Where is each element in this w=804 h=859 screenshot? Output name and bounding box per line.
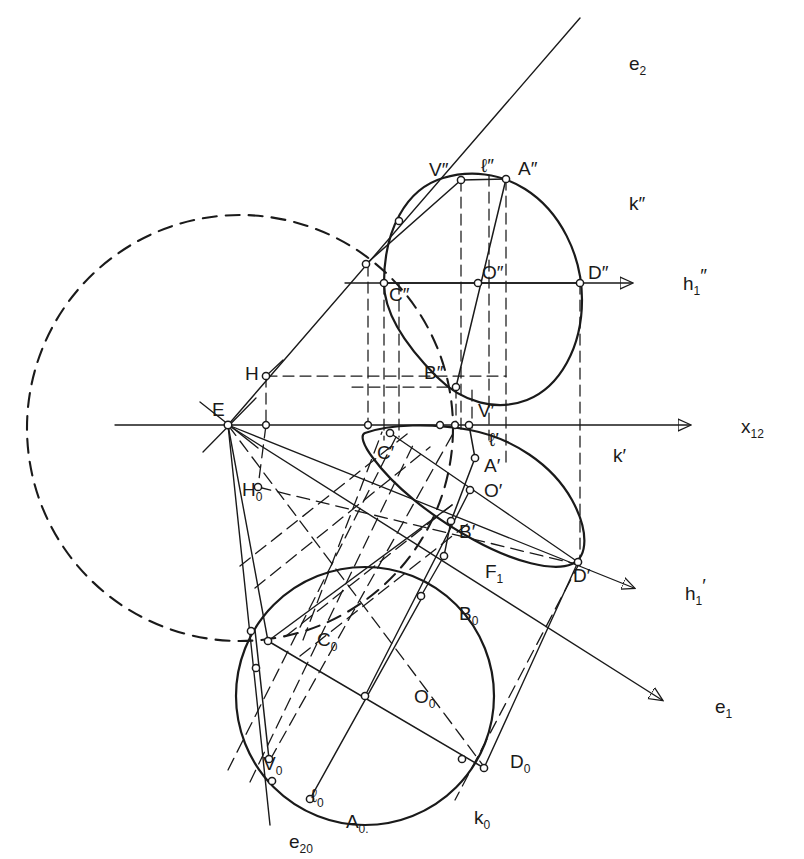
label-point-D0: D0 [473, 751, 557, 777]
label-point-V-double-prime: V″ [429, 159, 449, 180]
label-point-V0: V0 [226, 753, 309, 779]
label-point-V-prime: V′ [478, 400, 495, 421]
k2-chord-V-A [461, 179, 506, 180]
marker-A-prime [471, 454, 478, 461]
marker-k2-left [362, 260, 369, 267]
marker-H [262, 372, 269, 379]
marker-C-prime-axis [365, 422, 372, 429]
label-point-D-prime: D′ [573, 565, 591, 586]
transfer-D0-line [484, 562, 578, 768]
label-point-D-double-prime: D″ [588, 262, 609, 283]
label-point-l0: ℓ0 [274, 785, 350, 811]
marker-C-prime [386, 429, 393, 436]
label-point-H: H [245, 363, 259, 384]
label-point-O-prime: O′ [484, 480, 503, 501]
transfer-B0-to-F1 [421, 556, 444, 596]
axis-e1 [228, 425, 662, 700]
marker-C0-lower [252, 664, 259, 671]
marker-l0 [268, 777, 275, 784]
label-curve-k-prime: k′ [576, 445, 652, 466]
ordinate-lines-group [266, 175, 580, 560]
label-point-O-double-prime: O″ [482, 262, 504, 283]
label-point-E: E [212, 399, 225, 420]
label-axis-h1-double-prime: h1″ [646, 265, 733, 298]
label-point-l-double-prime: ℓ″ [481, 155, 494, 176]
marker-O-prime [466, 486, 473, 493]
marker-B0 [417, 592, 424, 599]
marker-O0 [361, 692, 368, 699]
marker-x12-mid-1 [437, 422, 444, 429]
marker-V-prime [465, 421, 472, 428]
corr-band-2 [255, 447, 430, 588]
k2-chord-V-lower [366, 180, 461, 264]
rotation-correspondence-lines [228, 425, 580, 800]
marker-B-double-prime [452, 383, 459, 390]
marker-D-double-prime [576, 279, 583, 286]
marker-V-double-prime [457, 176, 464, 183]
label-axis-e20: e20 [252, 831, 339, 857]
k0-chord-V0-C0 [255, 630, 269, 759]
label-point-A-double-prime: A″ [518, 158, 538, 179]
marker-F1 [440, 552, 447, 559]
corr-band-8 [303, 432, 382, 640]
label-axis-x12: x12 [704, 416, 790, 442]
marker-A-double-prime [502, 175, 509, 182]
label-point-F1: F1 [448, 561, 530, 587]
label-point-C-prime: C′ [377, 442, 395, 463]
curve-k-double-prime [384, 174, 582, 405]
corr-H-to-H0 [258, 425, 266, 487]
corr-H0-to-lower-right [258, 487, 580, 565]
label-curve-k-double-prime: k″ [592, 193, 672, 214]
label-point-B-double-prime: B″ [424, 362, 444, 383]
marker-B-prime [447, 517, 454, 524]
label-point-B0: B0 [422, 603, 505, 629]
marker-C-double-prime [380, 279, 387, 286]
label-point-l-prime: ℓ′ [489, 429, 499, 450]
label-axis-e1: e1 [678, 696, 759, 722]
label-axis-h1-prime: h1′ [648, 575, 732, 608]
marker-C0 [264, 637, 271, 644]
marker-x12-mid-2 [452, 422, 459, 429]
label-point-O0: O0 [377, 686, 462, 712]
labels-group: x12 h1″ h1′ e2 e1 e20 k″ k′ k0 V″ ℓ″ A [205, 53, 790, 857]
marker-C0-outer [247, 627, 254, 634]
label-point-H0: H0 [205, 479, 289, 505]
marker-E [224, 421, 232, 429]
marker-k2-upper-left [395, 217, 402, 224]
label-point-C0: C0 [280, 629, 364, 655]
label-axis-e2: e2 [592, 53, 673, 79]
marker-O-double-prime [474, 279, 481, 286]
construction-figure: x12 h1″ h1′ e2 e1 e20 k″ k′ k0 V″ ℓ″ A [0, 0, 804, 859]
label-point-A0: A0. [310, 811, 395, 837]
label-point-B-prime: B′ [459, 521, 476, 542]
axis-e2 [228, 18, 580, 425]
marker-H-on-axis [263, 422, 270, 429]
label-point-A-prime: A′ [484, 455, 501, 476]
marker-D0 [458, 755, 465, 762]
label-point-C-double-prime: C″ [389, 284, 410, 305]
label-curve-k0: k0 [437, 807, 517, 833]
